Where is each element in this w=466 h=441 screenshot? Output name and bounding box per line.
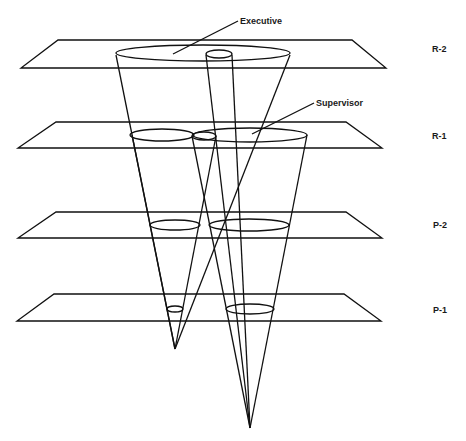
plane-r1 xyxy=(18,122,382,148)
section-r1-executive xyxy=(130,129,194,141)
section-p1-supervisor xyxy=(226,304,274,314)
cone-diagram: Executive Supervisor R-2 R-1 P-2 P-1 xyxy=(0,0,466,441)
level-label-p1: P-1 xyxy=(433,305,447,315)
section-p2-supervisor xyxy=(209,219,289,231)
section-p1-executive xyxy=(167,306,183,312)
section-p2-executive xyxy=(150,220,200,230)
executive-label: Executive xyxy=(240,16,282,26)
level-label-r1: R-1 xyxy=(432,131,447,141)
plane-p1 xyxy=(17,294,381,321)
supervisor-label: Supervisor xyxy=(316,98,364,108)
level-label-p2: P-2 xyxy=(433,220,447,230)
level-label-r2: R-2 xyxy=(432,44,447,54)
executive-cone xyxy=(116,45,290,349)
